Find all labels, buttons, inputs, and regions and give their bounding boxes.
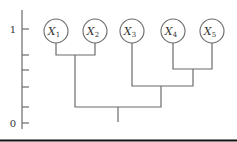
leaf-node-x2: X2 — [83, 19, 107, 43]
leaf-node-x5: X5 — [200, 19, 224, 43]
leaf-node-x1: X1 — [44, 19, 68, 43]
y-axis: 10 — [10, 10, 29, 129]
merge-root-branch — [75, 55, 161, 107]
leaf-node-x4: X4 — [161, 19, 185, 43]
merge-x4-x5-branch — [173, 43, 212, 69]
dendrogram-branches — [56, 43, 212, 122]
merge-x1-x2-branch — [56, 43, 95, 55]
leaf-nodes: X1X2X3X4X5 — [44, 19, 224, 43]
leaf-node-x3: X3 — [120, 19, 144, 43]
tick-label: 1 — [10, 24, 16, 35]
dendrogram-diagram: 10 X1X2X3X4X5 — [0, 0, 237, 142]
tick-label: 0 — [10, 118, 16, 129]
merge-x3-x45-branch — [132, 43, 193, 86]
